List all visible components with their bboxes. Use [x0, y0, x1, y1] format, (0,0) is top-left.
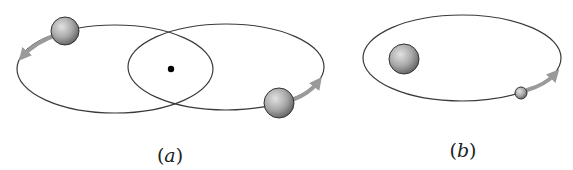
motion-arrow-b — [527, 74, 555, 90]
panel-a-letter: a — [164, 144, 175, 166]
orbit-diagram — [0, 0, 573, 170]
panel-b-label: (b) — [449, 139, 476, 161]
body-right-sphere — [264, 88, 294, 118]
panel-b — [363, 15, 561, 101]
panel-a — [17, 17, 324, 118]
panel-a-label: (a) — [157, 144, 183, 166]
large-body-sphere — [389, 44, 419, 74]
panel-b-letter: b — [457, 139, 469, 161]
small-body-sphere — [515, 87, 527, 99]
body-left-sphere — [51, 17, 79, 45]
center-of-mass-dot — [168, 66, 174, 72]
motion-arrow-right — [292, 82, 318, 100]
